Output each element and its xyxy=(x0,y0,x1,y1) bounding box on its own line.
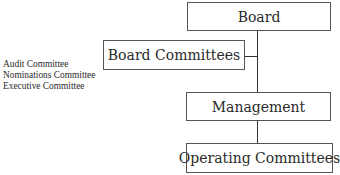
committee-item-executive: Executive Committee xyxy=(3,81,95,92)
committee-list: Audit Committee Nominations Committee Ex… xyxy=(3,59,95,92)
connector-management-operating xyxy=(257,121,258,143)
management-node: Management xyxy=(186,92,331,121)
board-node: Board xyxy=(187,2,331,31)
operating-committees-label: Operating Committees xyxy=(179,150,340,166)
operating-committees-node: Operating Committees xyxy=(186,143,333,173)
management-label: Management xyxy=(212,99,306,115)
connector-board-management xyxy=(257,31,258,92)
board-label: Board xyxy=(238,9,281,25)
connector-board-committees xyxy=(245,56,257,57)
board-committees-node: Board Committees xyxy=(103,40,245,70)
board-committees-label: Board Committees xyxy=(108,47,240,63)
committee-item-audit: Audit Committee xyxy=(3,59,95,70)
committee-item-nominations: Nominations Committee xyxy=(3,70,95,81)
